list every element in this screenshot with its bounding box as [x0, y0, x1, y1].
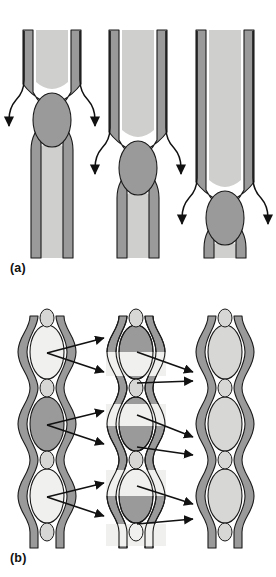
strand-arrow-left-1[interactable]	[9, 31, 24, 126]
chain-middle-pinch-2	[129, 379, 143, 397]
chain-right-loop-3	[208, 469, 242, 523]
chain-left-loop-2	[30, 397, 64, 451]
chain-right-pinch-1	[218, 309, 232, 327]
arrow-m4-r4[interactable]	[137, 447, 193, 455]
recombination-figure	[0, 0, 276, 577]
arrow-m6-r6[interactable]	[137, 519, 193, 524]
recombination-loop-1	[33, 93, 71, 147]
strand-arrow-left-3[interactable]	[182, 31, 197, 224]
chain-left-pinch-4	[40, 523, 54, 541]
chain-left	[18, 309, 76, 548]
strand-arrow-right-3[interactable]	[253, 31, 268, 224]
chain-left-loop-3	[30, 469, 64, 523]
chain-left-pinch-3	[40, 451, 54, 469]
panel-a-column-1	[9, 30, 95, 258]
chain-right-pinch-4	[218, 523, 232, 541]
panel-a-column-2	[95, 30, 181, 258]
chain-right-loop-2	[208, 397, 242, 451]
chain-right-loop-1	[208, 325, 242, 379]
chain-right-pinch-3	[218, 451, 232, 469]
chain-middle-pinch-4	[129, 523, 143, 541]
chain-middle-pinch-3	[129, 451, 143, 469]
panel-a-label: (a)	[10, 261, 26, 275]
panel-b-label: (b)	[10, 551, 27, 565]
chain-left-pinch-1	[40, 309, 54, 327]
strand-arrow-right-2[interactable]	[166, 31, 181, 174]
chain-left-loop-1	[30, 325, 64, 379]
chain-left-pinch-2	[40, 379, 54, 397]
recombination-loop-2	[119, 141, 157, 195]
panel-a	[9, 30, 268, 258]
chain-middle-pinch-1	[129, 309, 143, 327]
strand-arrow-right-1[interactable]	[80, 31, 95, 126]
arrow-m2-r2[interactable]	[137, 381, 193, 383]
strand-arrow-left-2[interactable]	[95, 31, 110, 174]
chain-middle	[106, 309, 166, 548]
panel-a-column-3	[182, 30, 268, 258]
panel-b	[18, 309, 254, 548]
chain-right-pinch-2	[218, 379, 232, 397]
chain-right	[196, 309, 254, 548]
recombination-loop-3	[206, 191, 244, 245]
